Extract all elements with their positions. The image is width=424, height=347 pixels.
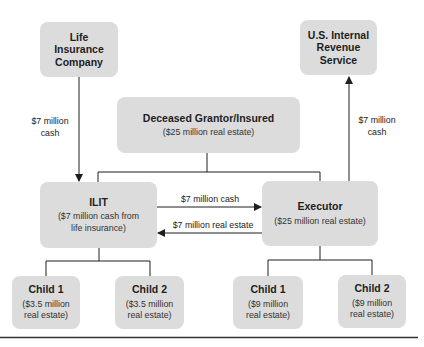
node-title: ILIT (89, 196, 108, 209)
node-title: Executor (298, 200, 343, 213)
node-title: Child 1 (28, 283, 63, 296)
node-ilit: ILIT ($7 million cash from life insuranc… (40, 182, 157, 248)
node-ilit-child-1: Child 1 ($3.5 million real estate) (12, 276, 80, 329)
node-irs: U.S. Internal Revenue Service (300, 20, 377, 75)
node-executor-child-2: Child 2 ($9 million real estate) (338, 275, 406, 328)
node-subtitle: ($3.5 million real estate) (122, 299, 178, 322)
label-line: $7 million (28, 116, 72, 128)
node-subtitle: ($9 million real estate) (344, 298, 400, 321)
node-executor: Executor ($25 million real estate) (262, 181, 378, 246)
edge-label-insurance-to-ilit: $7 million cash (28, 116, 72, 139)
node-executor-child-1: Child 1 ($9 million real estate) (233, 276, 303, 329)
node-ilit-child-2: Child 2 ($3.5 million real estate) (115, 276, 184, 329)
node-title: Child 2 (354, 282, 389, 295)
node-title: Child 2 (132, 283, 167, 296)
node-subtitle: ($9 million real estate) (240, 299, 296, 322)
edge-label-ilit-to-executor: $7 million cash (172, 194, 248, 206)
node-subtitle: ($25 million real estate) (274, 216, 365, 228)
node-subtitle: ($25 million real estate) (163, 127, 254, 139)
node-title: Child 1 (250, 283, 285, 296)
node-deceased-grantor: Deceased Grantor/Insured ($25 million re… (117, 97, 300, 153)
edge-label-executor-to-ilit: $7 million real estate (170, 220, 256, 232)
node-title: U.S. Internal Revenue Service (306, 29, 372, 67)
label-line: cash (355, 127, 399, 139)
label-line: cash (28, 128, 72, 140)
label-line: $7 million (355, 115, 399, 127)
node-subtitle: ($3.5 million real estate) (18, 299, 74, 322)
node-title: Deceased Grantor/Insured (143, 112, 274, 125)
edge-label-executor-to-irs: $7 million cash (355, 115, 399, 138)
node-life-insurance-company: Life Insurance Company (40, 22, 118, 77)
node-title: Life Insurance Company (44, 31, 114, 69)
node-subtitle: ($7 million cash from life insurance) (54, 211, 144, 234)
